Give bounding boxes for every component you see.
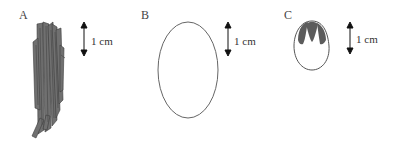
scale-arrow-a (81, 22, 87, 56)
oval-outline-drawing (132, 0, 264, 145)
panel-b: B 1 cm (132, 0, 264, 145)
scale-arrow-c (347, 22, 353, 54)
scale-arrow-b (225, 22, 231, 56)
egg-drawing (264, 0, 396, 145)
panel-a: A (0, 0, 132, 145)
scale-label-b: 1 cm (234, 35, 256, 47)
scale-label-c: 1 cm (356, 33, 378, 45)
panel-c: C 1 cm (264, 0, 396, 145)
fibrous-bundle-drawing (0, 0, 132, 145)
scale-label-a: 1 cm (91, 35, 113, 47)
